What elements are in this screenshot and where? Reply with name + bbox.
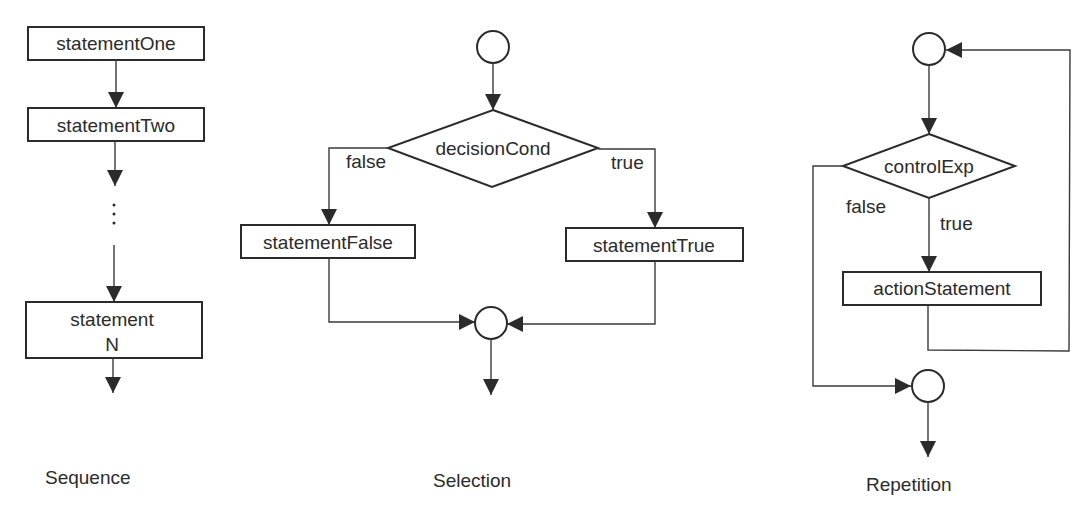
- false-merge-edge: [329, 258, 475, 322]
- ellipsis-dot: [113, 204, 116, 207]
- selection-start-connector: [477, 31, 509, 63]
- statement-true-node: statementTrue: [566, 228, 743, 261]
- statement-false-label: statementFalse: [263, 232, 393, 253]
- repetition-exit-connector: [912, 370, 944, 402]
- selection-merge-connector: [475, 307, 507, 339]
- selection-caption: Selection: [433, 470, 511, 491]
- decision-label: decisionCond: [435, 138, 550, 159]
- control-structures-diagram: statementOne statementTwo statement N Se…: [0, 0, 1087, 515]
- control-node: controlExp: [843, 134, 1015, 198]
- statement-true-label: statementTrue: [593, 235, 715, 256]
- repetition-start-connector: [913, 33, 945, 65]
- decision-node: decisionCond: [388, 110, 598, 187]
- repetition-caption: Repetition: [866, 474, 952, 495]
- repetition-diagram: controlExp true false actionStatement Re…: [813, 33, 1070, 495]
- statement-n-node: statement N: [26, 302, 202, 358]
- statement-one-label: statementOne: [56, 33, 175, 54]
- sequence-diagram: statementOne statementTwo statement N Se…: [26, 27, 204, 488]
- statement-two-node: statementTwo: [28, 108, 204, 141]
- statement-n-label-line2: N: [105, 334, 119, 355]
- action-statement-label: actionStatement: [873, 278, 1011, 299]
- control-label: controlExp: [884, 156, 974, 177]
- statement-two-label: statementTwo: [57, 115, 175, 136]
- statement-one-node: statementOne: [28, 27, 204, 60]
- statement-false-node: statementFalse: [241, 225, 415, 258]
- ellipsis-dot: [113, 222, 116, 225]
- selection-diagram: decisionCond false true statementFalse s…: [241, 31, 743, 491]
- ellipsis-dot: [113, 213, 116, 216]
- true-merge-edge: [507, 261, 655, 324]
- false-branch-label: false: [846, 196, 886, 217]
- action-statement-node: actionStatement: [843, 272, 1041, 305]
- sequence-caption: Sequence: [45, 467, 131, 488]
- ellipsis-dots: [113, 204, 116, 225]
- statement-n-label-line1: statement: [70, 309, 154, 330]
- false-branch-label: false: [346, 151, 386, 172]
- true-branch-label: true: [611, 152, 644, 173]
- true-branch-label: true: [940, 213, 973, 234]
